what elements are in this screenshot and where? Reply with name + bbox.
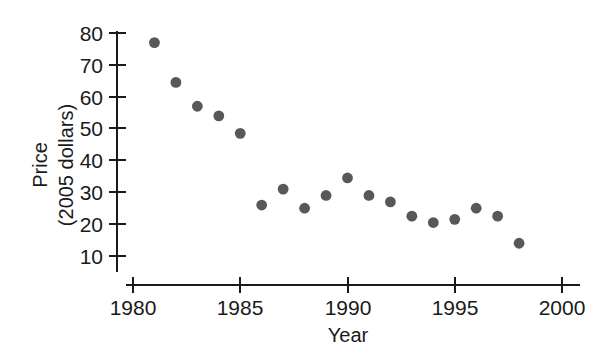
data-point — [321, 190, 332, 201]
x-tick-label-1990: 1990 — [325, 296, 372, 319]
y-axis-title-line2: (2005 dollars) — [55, 104, 77, 226]
data-point — [235, 128, 246, 139]
data-point — [428, 217, 439, 228]
y-tick-label-20: 20 — [80, 213, 103, 236]
data-points-layer — [149, 37, 524, 249]
data-point — [278, 184, 289, 195]
data-point — [449, 214, 460, 225]
y-axis-title-line1: Price — [29, 142, 51, 188]
x-tick-label-2000: 2000 — [539, 296, 586, 319]
data-point — [299, 203, 310, 214]
data-point — [149, 37, 160, 48]
data-point — [364, 190, 375, 201]
y-tick-label-50: 50 — [80, 117, 103, 140]
y-tick-label-70: 70 — [80, 54, 103, 77]
x-axis-title: Year — [328, 324, 369, 346]
data-point — [213, 110, 224, 121]
data-point — [385, 196, 396, 207]
data-point — [256, 200, 267, 211]
data-point — [492, 211, 503, 222]
y-tick-label-60: 60 — [80, 86, 103, 109]
scatter-plot-figure: 80 70 60 50 40 30 20 10 1980 1985 1990 1… — [0, 0, 615, 353]
data-point — [471, 203, 482, 214]
x-tick-label-1995: 1995 — [432, 296, 479, 319]
x-tick-label-1980: 1980 — [110, 296, 157, 319]
data-point — [192, 101, 203, 112]
data-point — [514, 238, 525, 249]
y-tick-label-10: 10 — [80, 245, 103, 268]
y-tick-label-80: 80 — [80, 22, 103, 45]
y-tick-label-30: 30 — [80, 181, 103, 204]
chart-canvas: 80 70 60 50 40 30 20 10 1980 1985 1990 1… — [0, 0, 615, 353]
data-point — [342, 173, 353, 184]
data-point — [406, 211, 417, 222]
y-tick-label-40: 40 — [80, 149, 103, 172]
data-point — [171, 77, 182, 88]
x-tick-label-1985: 1985 — [217, 296, 264, 319]
